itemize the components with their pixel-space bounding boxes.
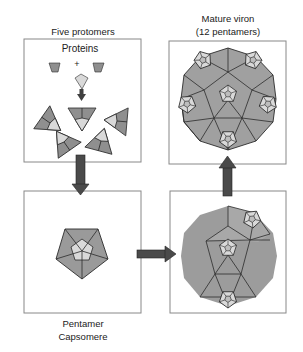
panel-mature-title-line1: Mature viron	[202, 13, 255, 25]
panel-pentamer-title-line2: Capsomere	[58, 331, 107, 343]
panel-pentamer-title-line1: Pentamer	[62, 318, 103, 330]
panel-mature-title-line2: (12 pentamers)	[196, 26, 260, 38]
panel-protomers-title: Five protomers	[51, 26, 114, 38]
diagram-canvas	[0, 0, 303, 352]
panel-protomers-box	[24, 39, 141, 162]
proteins-label: Proteins	[62, 43, 99, 55]
plus-sign: +	[74, 58, 79, 70]
